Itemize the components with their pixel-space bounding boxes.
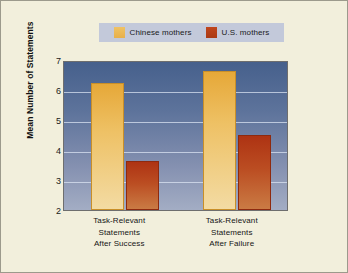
legend-entry-chinese-mothers: Chinese mothers bbox=[114, 27, 192, 38]
x-axis-category-labels: Task-Relevant Statements After Success T… bbox=[63, 215, 288, 250]
bar-group-after-failure bbox=[176, 62, 288, 210]
y-tick-3: 3 bbox=[41, 176, 61, 186]
x-label-after-failure: Task-Relevant Statements After Failure bbox=[176, 215, 289, 250]
bar-chinese-mothers-after-success bbox=[91, 83, 124, 210]
y-axis-tick-labels: 7 6 5 4 3 2 bbox=[41, 61, 61, 211]
x-label-after-success: Task-Relevant Statements After Success bbox=[63, 215, 176, 250]
chinese-mothers-swatch bbox=[114, 27, 125, 38]
us-mothers-swatch bbox=[206, 27, 217, 38]
bar-us-mothers-after-failure bbox=[238, 135, 271, 210]
x-label-after-failure-line-2: Statements bbox=[176, 227, 289, 239]
x-label-after-failure-line-1: Task-Relevant bbox=[176, 215, 289, 227]
bar-chart-figure: Chinese mothers U.S. mothers Mean Number… bbox=[0, 0, 348, 273]
x-label-after-failure-line-3: After Failure bbox=[176, 238, 289, 250]
plot-area bbox=[63, 61, 288, 211]
y-tick-4: 4 bbox=[41, 146, 61, 156]
x-label-after-success-line-1: Task-Relevant bbox=[63, 215, 176, 227]
bar-series-container bbox=[64, 62, 287, 210]
y-tick-7: 7 bbox=[41, 56, 61, 66]
y-axis-title: Mean Number of Statements bbox=[25, 10, 35, 150]
y-tick-2: 2 bbox=[41, 206, 61, 216]
x-label-after-success-line-3: After Success bbox=[63, 238, 176, 250]
x-label-after-success-line-2: Statements bbox=[63, 227, 176, 239]
chart-legend: Chinese mothers U.S. mothers bbox=[99, 23, 284, 42]
bar-chinese-mothers-after-failure bbox=[203, 71, 236, 210]
legend-label-us-mothers: U.S. mothers bbox=[222, 28, 270, 37]
legend-entry-us-mothers: U.S. mothers bbox=[206, 27, 270, 38]
bar-us-mothers-after-success bbox=[126, 161, 159, 210]
y-tick-5: 5 bbox=[41, 116, 61, 126]
y-tick-6: 6 bbox=[41, 86, 61, 96]
legend-label-chinese-mothers: Chinese mothers bbox=[130, 28, 192, 37]
bar-group-after-success bbox=[64, 62, 176, 210]
